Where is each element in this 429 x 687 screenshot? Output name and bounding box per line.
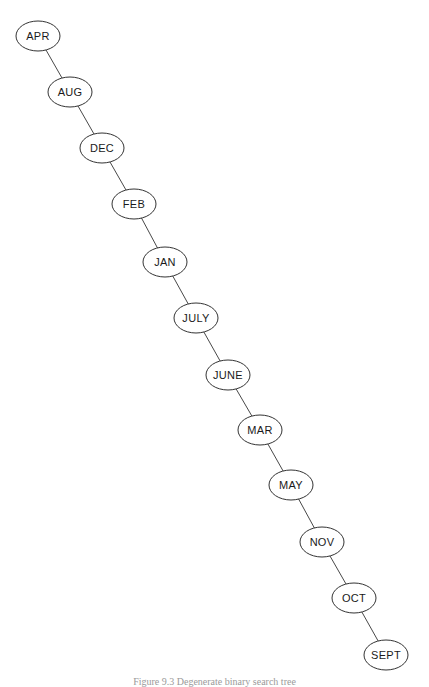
tree-svg: APRAUGDECFEBJANJULYJUNEMARMAYNOVOCTSEPT xyxy=(0,0,429,687)
node-label: APR xyxy=(26,30,50,42)
tree-node-oct: OCT xyxy=(332,583,376,613)
node-label: JULY xyxy=(182,312,210,324)
tree-node-mar: MAR xyxy=(238,415,282,445)
tree-node-july: JULY xyxy=(174,303,218,333)
node-label: JAN xyxy=(154,256,176,268)
node-label: FEB xyxy=(123,198,145,210)
node-label: OCT xyxy=(342,592,366,604)
node-label: MAY xyxy=(279,479,303,491)
node-label: AUG xyxy=(58,86,83,98)
tree-node-apr: APR xyxy=(16,21,60,51)
tree-node-jan: JAN xyxy=(143,247,187,277)
tree-node-aug: AUG xyxy=(48,77,92,107)
tree-node-dec: DEC xyxy=(80,133,124,163)
node-label: SEPT xyxy=(371,649,401,661)
edges-group xyxy=(38,36,386,655)
nodes-group: APRAUGDECFEBJANJULYJUNEMARMAYNOVOCTSEPT xyxy=(16,21,408,670)
tree-node-feb: FEB xyxy=(112,189,156,219)
node-label: DEC xyxy=(90,142,114,154)
tree-node-nov: NOV xyxy=(300,527,344,557)
tree-node-sept: SEPT xyxy=(364,640,408,670)
node-label: JUNE xyxy=(213,369,243,381)
node-label: NOV xyxy=(310,536,335,548)
tree-diagram: APRAUGDECFEBJANJULYJUNEMARMAYNOVOCTSEPT … xyxy=(0,0,429,687)
node-label: MAR xyxy=(247,424,272,436)
tree-node-may: MAY xyxy=(269,470,313,500)
figure-caption: Figure 9.3 Degenerate binary search tree xyxy=(0,676,429,687)
tree-node-june: JUNE xyxy=(206,360,250,390)
